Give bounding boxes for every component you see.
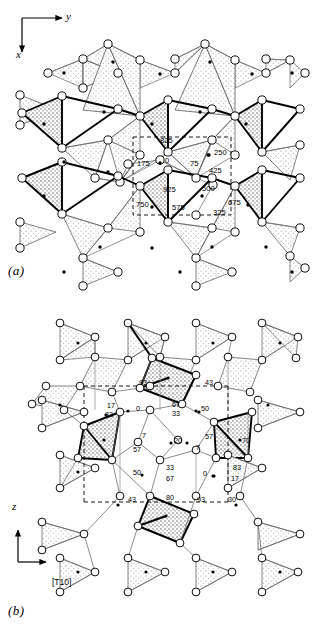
dot-near-250: [206, 153, 209, 156]
panel-b-caption: (b): [8, 603, 25, 619]
axis-label-z-b: z: [12, 500, 16, 512]
height-label: 425: [209, 166, 222, 175]
height-label: 57: [205, 432, 213, 441]
axis-label-x-a: x: [16, 48, 21, 60]
height-label: 7: [196, 443, 200, 452]
height-label: 30: [228, 495, 236, 504]
height-label: 67: [172, 400, 180, 409]
height-label: 500: [202, 184, 215, 193]
height-label: 20: [174, 436, 182, 445]
height-label: 17: [107, 401, 115, 410]
height-label: 67: [166, 474, 174, 483]
panel-a-caption: (a): [8, 263, 25, 279]
panel-b-diagram: 9343178306733507205777057335067083174380…: [0, 300, 312, 631]
height-label: 93: [139, 378, 147, 387]
height-label: 83: [105, 410, 113, 419]
height-label: 75: [190, 159, 198, 168]
height-label: 750: [136, 200, 149, 209]
height-label: 17: [231, 474, 239, 483]
height-label: 925: [163, 185, 176, 194]
axis-indicator-a: [22, 18, 62, 52]
height-label: 0: [165, 156, 169, 165]
axis-label-direction-b: [T10]: [52, 577, 71, 587]
panel-b: 9343178306733507205777057335067083174380…: [0, 300, 312, 631]
panel-a-diagram: 825250175075425925500750575675325: [0, 0, 312, 300]
height-label: 575: [172, 203, 185, 212]
axis-label-y-a: y: [66, 10, 71, 22]
height-label: 43: [205, 378, 213, 387]
panel-a: 825250175075425925500750575675325: [0, 0, 312, 300]
height-label: 250: [214, 148, 227, 157]
height-label: 80: [166, 493, 174, 502]
height-label: 70: [242, 436, 250, 445]
height-label: 83: [233, 463, 241, 472]
dot-near-0: [158, 161, 161, 164]
height-label: 175: [137, 159, 150, 168]
height-label: 93: [197, 495, 205, 504]
height-label: 33: [172, 409, 180, 418]
height-label: 50: [201, 404, 209, 413]
height-label: 43: [128, 495, 136, 504]
height-label: 33: [166, 463, 174, 472]
height-label: 0: [136, 404, 140, 413]
height-label: 0: [203, 469, 207, 478]
height-label: 325: [213, 208, 226, 217]
height-label: 675: [228, 198, 241, 207]
height-label: 57: [133, 445, 141, 454]
height-label: 825: [160, 136, 173, 145]
height-label: 7: [142, 431, 146, 440]
height-label: 50: [133, 468, 141, 477]
